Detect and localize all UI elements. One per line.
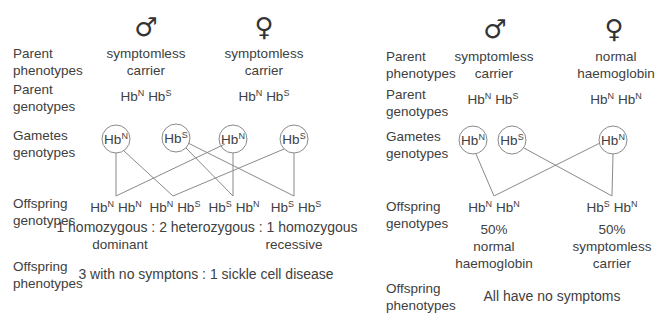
gamete-3: HbN [221,132,245,147]
offspring-genotype-2: HbS HbN [587,200,638,215]
offspring-genotype-1: HbN HbN [90,200,141,215]
male-genotype: HbN HbS [468,92,519,107]
gamete-4: HbS [282,132,305,147]
gamete-1: HbN [104,132,128,147]
gamete-3: HbN [601,133,625,148]
female-phenotype: normal haemoglobin [577,48,654,82]
row-label-parent-phenotypes: Parent phenotypes [13,45,83,79]
offspring-genotype-2: HbN HbS [150,200,201,215]
female-genotype: HbN HbN [590,92,641,107]
gamete-1: HbN [461,133,485,148]
male-symbol-icon: ♂ [134,14,157,40]
female-symbol-icon: ♀ [604,16,623,42]
offspring-genotype-3: HbS HbN [209,200,260,215]
gamete-2: HbS [500,133,523,148]
ratio-line: 1 homozygous : 2 heterozygous : 1 homozy… [56,219,357,236]
row-label-offspring-phenotypes: Offspring phenotypes [386,280,456,314]
row-label-parent-genotypes: Parent genotypes [386,86,448,120]
offspring-genotype-4: HbS HbS [271,200,321,215]
row-label-gametes: Gametes genotypes [386,128,448,162]
male-genotype: HbN HbS [121,89,172,104]
male-phenotype: symptomless carrier [107,45,186,79]
offspring-2-description: 50% symptomless carrier [573,221,652,272]
row-label-offspring-phenotypes: Offspring phenotypes [13,258,83,292]
row-label-parent-phenotypes: Parent phenotypes [386,48,456,82]
female-genotype: HbN HbS [239,89,290,104]
ratio-sub-dominant: dominant [92,236,148,253]
phenotype-summary-left: 3 with no symptons : 1 sickle cell disea… [78,266,333,283]
ratio-sub-recessive: recessive [265,236,322,253]
offspring-genotype-1: HbN HbN [468,200,519,215]
phenotype-summary-right: All have no symptoms [484,288,621,305]
gamete-2: HbS [164,131,187,146]
male-phenotype: symptomless carrier [455,48,534,82]
female-phenotype: symptomless carrier [225,45,304,79]
row-label-offspring-genotypes: Offspring genotypes [386,198,448,232]
female-symbol-icon: ♀ [254,14,273,40]
offspring-1-description: 50% normal haemoglobin [455,221,532,272]
row-label-parent-genotypes: Parent genotypes [13,81,75,115]
male-symbol-icon: ♂ [483,16,506,42]
row-label-gametes: Gametes genotypes [13,127,75,161]
